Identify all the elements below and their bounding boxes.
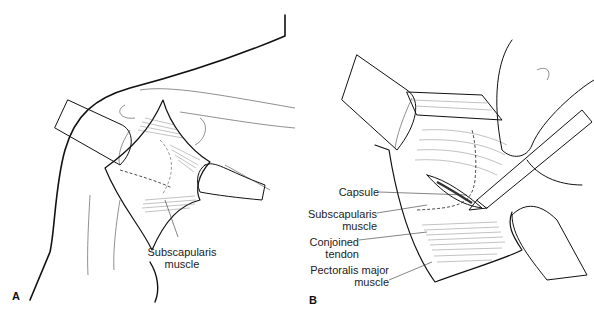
label-capsule: Capsule xyxy=(307,186,379,198)
label-line: Pectoralis major xyxy=(297,264,389,276)
label-line: muscle xyxy=(297,276,389,288)
label-line: tendon xyxy=(297,248,359,260)
label-line: Conjoined xyxy=(297,236,359,248)
panel-a-illustration: Subscapularis muscle A xyxy=(0,0,297,313)
label-line: Subscapularis xyxy=(297,208,377,220)
label-subscapularis-muscle-a: Subscapularis muscle xyxy=(142,246,222,270)
label-line: Capsule xyxy=(307,186,379,198)
panel-letter-a: A xyxy=(12,290,20,302)
label-line: muscle xyxy=(142,258,222,270)
label-line: muscle xyxy=(297,220,377,232)
label-line: Subscapularis xyxy=(142,246,222,258)
label-conjoined-tendon: Conjoined tendon xyxy=(297,236,359,260)
label-subscapularis-muscle-b: Subscapularis muscle xyxy=(297,208,377,232)
panel-b-illustration: Capsule Subscapularis muscle Conjoined t… xyxy=(297,0,594,313)
label-pectoralis-major-muscle: Pectoralis major muscle xyxy=(297,264,389,288)
panel-letter-b: B xyxy=(309,294,317,306)
